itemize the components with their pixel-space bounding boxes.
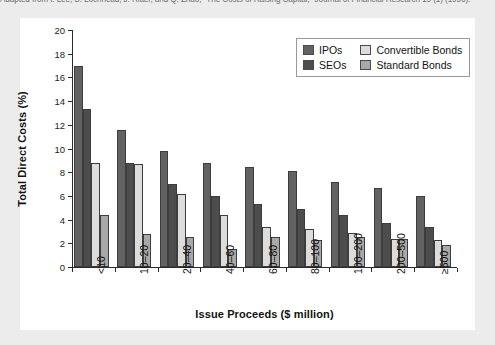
bar-seos [425,227,434,267]
x-axis-tick-mark [243,268,244,272]
y-axis-tick-label: 6 [60,190,65,201]
x-axis-tick-label: 80–100 [309,239,321,274]
y-axis-tick-mark [68,77,72,78]
y-axis-tick-mark [68,101,72,102]
legend-item-convertible-bonds: Convertible Bonds [360,44,462,56]
y-axis-tick-label: 4 [60,214,65,225]
x-axis-tick-label: 200–500 [395,233,407,274]
x-axis-tick-mark [371,268,372,272]
source-credit-line: Adapted from I. Lee, S. Lochhead, J. Rit… [0,0,495,6]
legend-item-standard-bonds: Standard Bonds [360,59,462,71]
y-axis-tick-label: 14 [54,96,65,107]
y-axis-tick-label: 0 [60,262,65,273]
bar-ipos [160,151,169,267]
bar-ipos [245,167,254,267]
chart-legend: IPOsConvertible BondsSEOsStandard Bonds [296,38,470,77]
bar-group [160,30,194,267]
bar-group [245,30,279,267]
legend-swatch-icon [303,60,314,70]
y-axis-tick-mark [68,172,72,173]
x-axis-tick-label: 20–40 [181,245,193,274]
y-axis-tick-mark [68,149,72,150]
legend-swatch-icon [360,45,371,55]
bar-group [74,30,108,267]
bar-ipos [74,66,83,267]
y-axis-tick-label: 18 [54,48,65,59]
bar-seos [382,223,391,267]
legend-item-seos: SEOs [303,59,346,71]
x-axis-tick-mark [457,268,458,272]
x-axis-tick-mark [115,268,116,272]
y-axis-tick-mark [68,220,72,221]
x-axis-tick-label: 60–80 [267,245,279,274]
y-axis-line [72,30,73,268]
x-axis-tick-mark [200,268,201,272]
bar-seos [254,204,263,267]
x-axis-tick-label: 40–60 [224,245,236,274]
legend-item-ipos: IPOs [303,44,346,56]
x-axis-tick-mark [414,268,415,272]
legend-swatch-icon [303,45,314,55]
legend-label: Standard Bonds [376,59,451,71]
bar-ipos [117,130,126,267]
x-axis-tick-label: 100–200 [352,233,364,274]
legend-swatch-icon [360,60,371,70]
x-axis-tick-mark [286,268,287,272]
y-axis-tick-label: 12 [54,119,65,130]
y-axis-tick-label: 10 [54,143,65,154]
bar-ipos [374,188,383,267]
x-axis-tick-label: <10 [95,256,107,274]
bar-group [117,30,151,267]
y-axis-title-text: Total Direct Costs (%) [16,91,28,207]
x-axis-tick-label: ≥500 [438,251,450,274]
bar-seos [83,109,92,267]
bar-ipos [203,163,212,267]
y-axis-tick-label: 8 [60,167,65,178]
bar-convertible-bonds [91,163,100,267]
x-axis-tick-mark [158,268,159,272]
bar-ipos [331,182,340,267]
bar-seos [297,209,306,267]
y-axis-tick-mark [68,196,72,197]
legend-label: Convertible Bonds [376,44,462,56]
y-axis-tick-mark [68,30,72,31]
y-axis-tick-label: 20 [54,25,65,36]
y-axis-tick-label: 2 [60,238,65,249]
x-axis-tick-mark [72,268,73,272]
bar-seos [168,184,177,267]
bar-ipos [416,196,425,267]
y-axis-tick-label: 16 [54,72,65,83]
legend-label: IPOs [319,44,342,56]
legend-label: SEOs [319,59,346,71]
bar-ipos [288,171,297,267]
x-axis-tick-mark [329,268,330,272]
figure-panel: 02468101214161820 <1010–2020–4040–6060–8… [20,18,475,330]
y-axis-tick-mark [68,54,72,55]
y-axis-tick-mark [68,125,72,126]
bar-seos [339,215,348,267]
bar-seos [126,163,135,267]
x-axis-title: Issue Proceeds ($ million) [72,308,457,320]
x-axis-tick-label: 10–20 [138,245,150,274]
bar-group [203,30,237,267]
bar-seos [211,196,220,267]
y-axis-tick-mark [68,243,72,244]
